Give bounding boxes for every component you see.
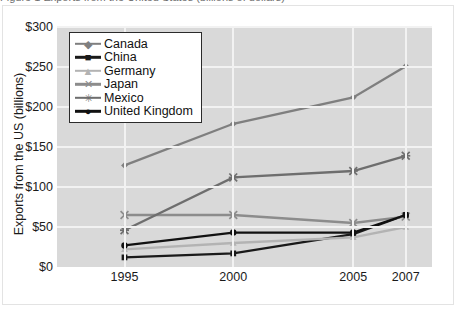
legend-marker-icon: ◆	[75, 37, 101, 50]
y-axis-tick-50: $50	[3, 220, 53, 234]
legend-label: Canada	[104, 37, 148, 51]
legend-item-japan[interactable]: ✕Japan	[75, 78, 193, 92]
series-china	[122, 212, 409, 260]
legend-label: Germany	[104, 64, 155, 78]
series-japan	[121, 211, 410, 227]
gridline-horizontal	[57, 226, 432, 228]
legend-label: China	[104, 50, 137, 64]
legend-item-germany[interactable]: ▲Germany	[75, 64, 193, 78]
legend-marker-icon: ●	[75, 105, 101, 118]
legend-marker-icon: ▲	[75, 64, 101, 77]
x-axis-tick-1995: 1995	[111, 270, 139, 284]
x-axis-tick-2005: 2005	[339, 270, 367, 284]
y-axis-tick-250: $250	[3, 60, 53, 74]
y-axis-tick-100: $100	[3, 180, 53, 194]
gridline-horizontal	[57, 26, 432, 28]
y-axis-tick-200: $200	[3, 100, 53, 114]
legend-marker-icon: ✳	[75, 91, 101, 104]
legend-label: Mexico	[104, 91, 144, 105]
legend-marker-icon: ■	[75, 51, 101, 64]
x-axis-tick-labels: 1995200020052007	[57, 270, 432, 290]
legend-item-united-kingdom[interactable]: ●United Kingdom	[75, 105, 193, 119]
gridline-horizontal	[57, 186, 432, 188]
legend-item-china[interactable]: ■China	[75, 51, 193, 65]
legend-item-canada[interactable]: ◆Canada	[75, 37, 193, 51]
x-axis-tick-2007: 2007	[392, 270, 420, 284]
y-axis-tick-0: $0	[3, 260, 53, 274]
chart-title: Figure 1 Exports from the United States …	[0, 0, 460, 3]
x-axis-tick-2000: 2000	[219, 270, 247, 284]
y-axis-tick-labels: $0$50$100$150$200$250$300	[0, 27, 53, 267]
chart-legend: ◆Canada■China▲Germany✕Japan✳Mexico●Unite…	[69, 32, 202, 123]
legend-item-mexico[interactable]: ✳Mexico	[75, 91, 193, 105]
legend-label: Japan	[104, 77, 138, 91]
chart-figure: Figure 1 Exports from the United States …	[0, 0, 460, 314]
legend-marker-icon: ✕	[75, 78, 101, 91]
y-axis-tick-150: $150	[3, 140, 53, 154]
legend-label: United Kingdom	[104, 104, 193, 118]
y-axis-tick-300: $300	[3, 20, 53, 34]
gridline-horizontal	[57, 146, 432, 148]
